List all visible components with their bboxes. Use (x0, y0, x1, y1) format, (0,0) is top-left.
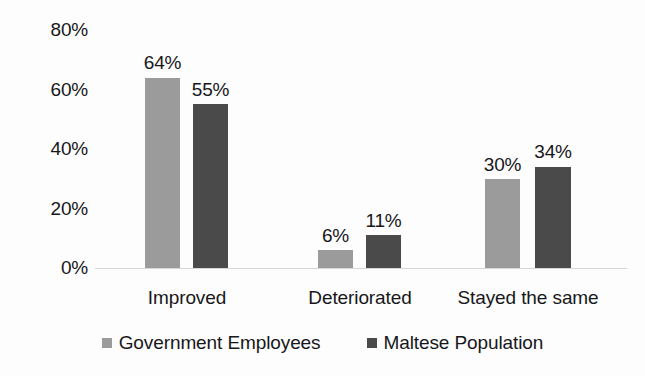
value-label-stayed-the-same-government-employees: 30% (484, 154, 521, 176)
x-axis-category-improved: Improved (148, 287, 226, 309)
bar-chart: 80% 60% 40% 20% 0% 64% 55% 6% 11% 30% 34… (0, 0, 645, 376)
x-axis-line (95, 268, 627, 269)
chart-legend: Government Employees Maltese Population (0, 332, 645, 354)
bar-deteriorated-maltese-population (366, 235, 401, 268)
bar-improved-maltese-population (193, 104, 228, 268)
value-label-improved-government-employees: 64% (144, 52, 181, 74)
legend-item-maltese-population[interactable]: Maltese Population (367, 332, 544, 354)
y-axis-tick-60: 60% (51, 79, 88, 101)
value-label-stayed-the-same-maltese-population: 34% (534, 141, 571, 163)
y-axis-tick-40: 40% (51, 138, 88, 160)
bar-stayed-the-same-maltese-population (535, 167, 571, 268)
y-axis: 80% 60% 40% 20% 0% (0, 0, 88, 376)
value-label-deteriorated-government-employees: 6% (322, 225, 349, 247)
y-axis-tick-0: 0% (61, 257, 88, 279)
bar-deteriorated-government-employees (318, 250, 353, 268)
bar-improved-government-employees (145, 78, 180, 268)
x-axis-category-deteriorated: Deteriorated (308, 287, 411, 309)
value-label-improved-maltese-population: 55% (192, 79, 229, 101)
bar-stayed-the-same-government-employees (485, 179, 520, 268)
y-axis-tick-80: 80% (51, 19, 88, 41)
x-axis-category-stayed-the-same: Stayed the same (457, 287, 598, 309)
y-axis-tick-20: 20% (51, 198, 88, 220)
legend-item-government-employees[interactable]: Government Employees (102, 332, 321, 354)
legend-label-government-employees: Government Employees (119, 332, 321, 354)
legend-swatch-icon-government-employees (102, 338, 112, 348)
legend-label-maltese-population: Maltese Population (384, 332, 544, 354)
plot-area: 64% 55% 6% 11% 30% 34% (95, 30, 625, 268)
legend-swatch-icon-maltese-population (367, 338, 377, 348)
value-label-deteriorated-maltese-population: 11% (365, 210, 401, 232)
